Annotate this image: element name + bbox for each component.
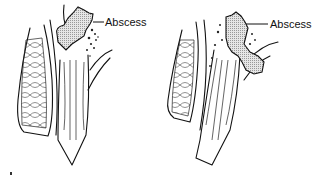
granules-left bbox=[86, 29, 99, 57]
abscess-left bbox=[57, 7, 93, 50]
right-panel bbox=[168, 12, 278, 165]
abscess-label-left: Abscess bbox=[105, 17, 147, 28]
tooth-right bbox=[196, 50, 240, 165]
corner-marker bbox=[10, 172, 12, 175]
cancellous-bone-right bbox=[172, 40, 194, 116]
tooth-left bbox=[58, 55, 89, 165]
abscess-right bbox=[226, 12, 264, 74]
dental-abscess-figure: Abscess Abscess bbox=[0, 0, 320, 181]
left-panel bbox=[18, 5, 112, 165]
cancellous-bone-left bbox=[22, 38, 47, 128]
abscess-label-right: Abscess bbox=[270, 19, 312, 30]
